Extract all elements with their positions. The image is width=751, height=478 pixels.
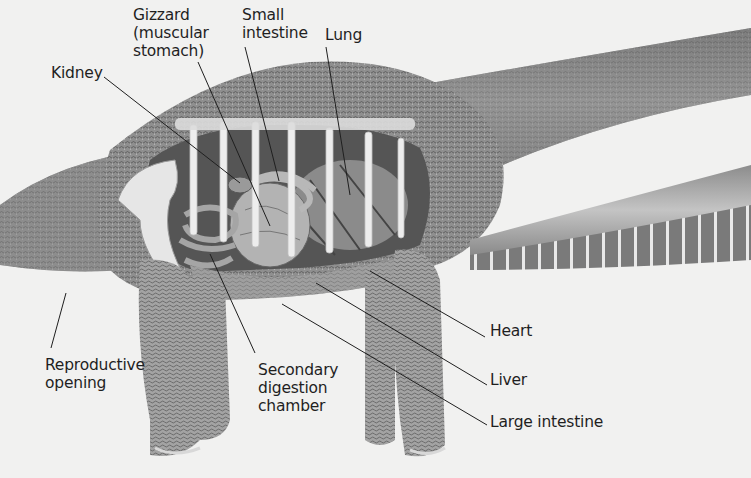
dinosaur-illustration: [0, 0, 751, 478]
label-gizzard: Gizzard (muscular stomach): [133, 6, 209, 60]
label-small-intestine: Small intestine: [242, 6, 308, 42]
anatomy-diagram: Kidney Gizzard (muscular stomach) Small …: [0, 0, 751, 478]
label-reproductive-opening: Reproductive opening: [45, 356, 145, 392]
label-lung: Lung: [325, 26, 362, 44]
label-kidney: Kidney: [51, 64, 103, 82]
label-secondary-digestion-chamber: Secondary digestion chamber: [258, 361, 338, 415]
front-leg-back: [365, 269, 395, 445]
label-large-intestine: Large intestine: [490, 413, 603, 431]
label-heart: Heart: [490, 322, 532, 340]
kidney: [228, 177, 252, 193]
label-liver: Liver: [490, 371, 527, 389]
hind-leg-front: [139, 259, 200, 456]
leader-line-reproductive-opening: [51, 293, 66, 348]
spine: [175, 118, 415, 130]
front-leg-front: [393, 249, 445, 456]
